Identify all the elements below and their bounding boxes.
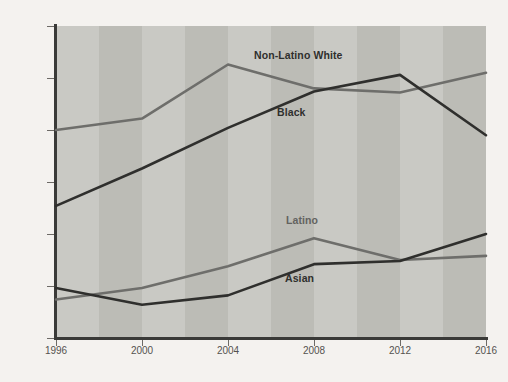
series-label-non-latino-white: Non-Latino White [254, 49, 343, 61]
background-band [357, 26, 400, 338]
chart-container: 40455055606570% 199620002004200820122016… [0, 0, 508, 382]
y-tick-mark [47, 338, 54, 339]
x-tick-label: 2008 [303, 345, 325, 356]
y-tick-mark [47, 182, 54, 183]
x-axis-line [54, 337, 488, 340]
y-tick-mark [47, 78, 54, 79]
x-tick-label: 2012 [389, 345, 411, 356]
y-tick-mark [47, 234, 54, 235]
plot-area [56, 26, 486, 338]
series-label-black: Black [277, 106, 306, 118]
y-tick-mark [47, 26, 54, 27]
background-band [185, 26, 228, 338]
background-band [271, 26, 314, 338]
series-label-asian: Asian [285, 272, 314, 284]
x-tick-label: 1996 [45, 345, 67, 356]
x-tick-label: 2016 [475, 345, 497, 356]
y-axis-line [54, 24, 57, 340]
series-label-latino: Latino [286, 214, 318, 226]
x-tick-label: 2000 [131, 345, 153, 356]
background-band [99, 26, 142, 338]
y-tick-mark [47, 130, 54, 131]
x-tick-label: 2004 [217, 345, 239, 356]
y-tick-mark [47, 286, 54, 287]
background-band [443, 26, 486, 338]
